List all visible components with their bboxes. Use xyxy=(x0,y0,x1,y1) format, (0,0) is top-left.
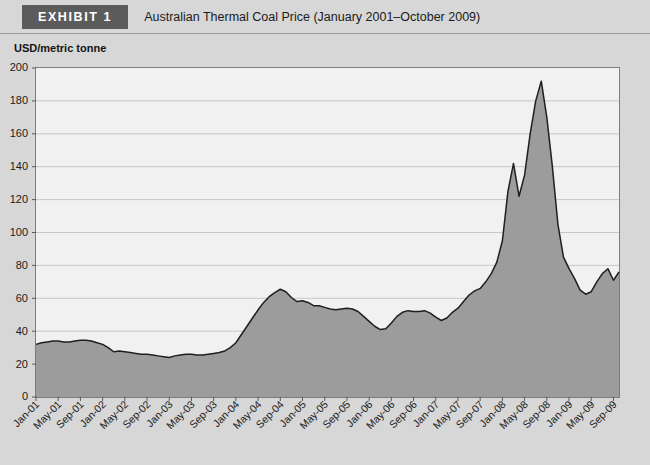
y-axis-unit-label: USD/metric tonne xyxy=(14,42,106,54)
header-divider xyxy=(0,33,650,34)
y-tick-label: 20 xyxy=(16,358,28,370)
y-axis-tick-labels: 020406080100120140160180200 xyxy=(10,61,36,402)
y-tick-label: 140 xyxy=(10,160,28,172)
y-tick-label: 120 xyxy=(10,193,28,205)
y-tick-label: 200 xyxy=(10,61,28,73)
y-tick-label: 100 xyxy=(10,226,28,238)
page-title: Australian Thermal Coal Price (January 2… xyxy=(144,10,480,24)
y-tick-label: 80 xyxy=(16,259,28,271)
y-tick-label: 0 xyxy=(22,390,28,402)
y-tick-label: 40 xyxy=(16,325,28,337)
exhibit-header: EXHIBIT 1 Australian Thermal Coal Price … xyxy=(0,0,650,34)
coal-price-area-chart: 020406080100120140160180200 Jan-01May-01… xyxy=(0,54,650,465)
exhibit-badge: EXHIBIT 1 xyxy=(22,5,128,30)
chart-area-figure: 020406080100120140160180200 Jan-01May-01… xyxy=(0,54,650,465)
x-axis-tick-labels: Jan-01May-01Sep-01Jan-02May-02Sep-02Jan-… xyxy=(10,397,619,431)
y-tick-label: 180 xyxy=(10,94,28,106)
y-tick-label: 160 xyxy=(10,127,28,139)
y-tick-label: 60 xyxy=(16,292,28,304)
